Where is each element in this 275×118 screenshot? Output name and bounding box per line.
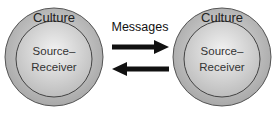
arrow-left-icon (112, 62, 169, 76)
arrow-right-icon (112, 40, 169, 54)
right-inner-line2: Receiver (187, 59, 257, 75)
left-inner-line1: Source– (19, 43, 89, 59)
left-culture-label: Culture (19, 10, 89, 25)
left-source-receiver-label: Source– Receiver (19, 43, 89, 75)
right-culture-label: Culture (187, 10, 257, 25)
right-inner-line1: Source– (187, 43, 257, 59)
messages-label: Messages (100, 20, 180, 34)
left-inner-line2: Receiver (19, 59, 89, 75)
right-source-receiver-label: Source– Receiver (187, 43, 257, 75)
